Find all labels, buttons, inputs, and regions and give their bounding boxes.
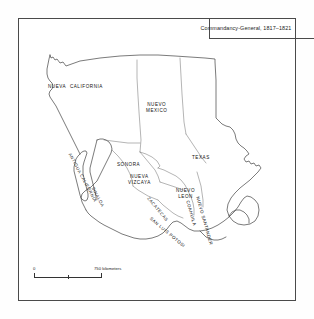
region-label-nuevo-leon: NUEVOLEON [176,188,195,201]
map-linework [0,0,314,319]
california-coast [47,55,80,154]
scale-label-end: 750 kilometers [94,266,121,271]
region-label-nueva-vizcaya: NUEVAVIZCAYA [128,174,151,187]
border-nuevomexico-east [180,58,186,134]
yucatan-peninsula [229,210,249,223]
map-figure: Commandancy-General, 1817–1821 [0,0,314,319]
region-label-sonora: SONORA [117,162,140,168]
region-label-texas: TEXAS [192,155,210,161]
border-california-nuevomexico [137,60,141,152]
region-label-nuevo-mexico: NUEVOMEXICO [146,102,167,115]
scale-label-start: 0 [33,266,35,271]
region-label-nueva-california: NUEVA CALIFORNIA [48,84,103,90]
scale-tick-start [34,273,35,278]
scale-tick-mid [68,275,69,279]
border-vizcaya-zacatecas [140,152,160,168]
scale-tick-end [101,273,102,278]
border-vizcaya-south [133,186,158,200]
